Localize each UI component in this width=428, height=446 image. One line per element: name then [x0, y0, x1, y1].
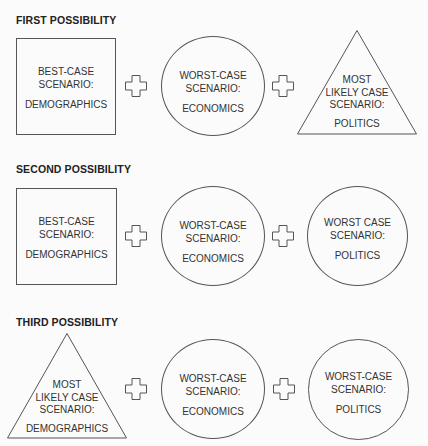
- scenario-line2: LIKELY CASE: [36, 392, 99, 403]
- worst-case-circle: WORST-CASE SCENARIO: ECONOMICS: [161, 339, 265, 439]
- scenario-line3: SCENARIO:: [329, 99, 384, 110]
- plus-icon: [125, 75, 147, 97]
- scenario-line2: SCENARIO:: [185, 386, 240, 397]
- plus-icon: [272, 225, 294, 247]
- scenario-line2: SCENARIO:: [39, 229, 94, 240]
- scenario-subject: POLITICS: [309, 404, 408, 417]
- scenario-line2: SCENARIO:: [38, 79, 93, 90]
- scenario-line1: BEST-CASE: [38, 216, 94, 227]
- best-case-square: BEST-CASE SCENARIO: DEMOGRAPHICS: [16, 38, 116, 135]
- scenario-line1: MOST: [53, 379, 82, 390]
- plus-icon: [273, 378, 295, 400]
- scenario-line1: WORST-CASE: [179, 70, 246, 81]
- plus-icon: [272, 75, 294, 97]
- scenario-line2: SCENARIO:: [331, 384, 386, 395]
- scenario-subject: ECONOMICS: [162, 406, 264, 419]
- worst-case-circle: WORST-CASE SCENARIO: POLITICS: [308, 339, 409, 440]
- scenario-line1: WORST-CASE: [179, 373, 246, 384]
- most-likely-triangle: MOST LIKELY CASE SCENARIO: DEMOGRAPHICS: [7, 333, 127, 439]
- worst-case-circle: WORST-CASE SCENARIO: ECONOMICS: [161, 36, 265, 136]
- section-title-third: THIRD POSSIBILITY: [16, 316, 118, 328]
- scenario-line2: SCENARIO:: [330, 230, 385, 241]
- scenario-line1: WORST-CASE: [179, 220, 246, 231]
- worst-case-circle: WORST-CASE SCENARIO: ECONOMICS: [161, 186, 265, 286]
- scenario-subject: ECONOMICS: [162, 253, 264, 266]
- scenario-subject: ECONOMICS: [162, 103, 264, 116]
- scenario-subject: POLITICS: [308, 250, 407, 263]
- scenario-line1: MOST: [343, 74, 372, 85]
- section-title-second: SECOND POSSIBILITY: [16, 163, 131, 175]
- scenario-line3: SCENARIO:: [39, 404, 94, 415]
- scenario-line1: WORST-CASE: [325, 371, 392, 382]
- worst-case-circle: WORST CASE SCENARIO: POLITICS: [307, 186, 408, 286]
- scenario-subject: DEMOGRAPHICS: [17, 99, 115, 112]
- plus-icon: [125, 378, 147, 400]
- scenario-subject: POLITICS: [297, 118, 417, 131]
- scenario-line1: BEST-CASE: [38, 66, 94, 77]
- section-title-first: FIRST POSSIBILITY: [16, 14, 116, 26]
- scenario-subject: DEMOGRAPHICS: [17, 249, 116, 262]
- scenario-line1: WORST CASE: [324, 217, 391, 228]
- best-case-square: BEST-CASE SCENARIO: DEMOGRAPHICS: [16, 188, 117, 285]
- scenario-line2: SCENARIO:: [185, 83, 240, 94]
- scenario-line2: SCENARIO:: [185, 233, 240, 244]
- plus-icon: [125, 225, 147, 247]
- scenario-subject: DEMOGRAPHICS: [7, 423, 127, 436]
- most-likely-triangle: MOST LIKELY CASE SCENARIO: POLITICS: [297, 30, 417, 135]
- scenario-line2: LIKELY CASE: [326, 87, 389, 98]
